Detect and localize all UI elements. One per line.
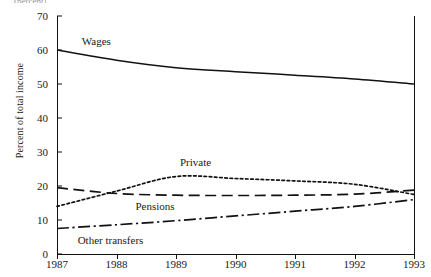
series-label-wages: Wages xyxy=(82,35,111,47)
line-chart: (percent) Percent of total income 010203… xyxy=(0,0,431,277)
series-line-other-transfers xyxy=(57,200,414,229)
series-label-other-transfers: Other transfers xyxy=(78,234,144,246)
series-line-private xyxy=(57,176,414,207)
series-label-private: Private xyxy=(180,156,211,168)
plot-area xyxy=(0,0,431,277)
series-line-wages xyxy=(57,50,414,84)
series-label-pensions: Pensions xyxy=(135,200,174,212)
series-line-pensions xyxy=(57,188,414,196)
